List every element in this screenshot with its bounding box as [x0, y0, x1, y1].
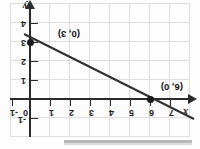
graph-figure: 7 6 5 4 3 2 1 -1 0 -1 1 2 3 4 [0, 0, 200, 143]
x-axis-tick [50, 99, 51, 106]
screenshot-canvas: 7 6 5 4 3 2 1 -1 0 -1 1 2 3 4 [0, 0, 200, 149]
y-axis-tick [31, 118, 38, 119]
x-tick-label-2: 2 [69, 108, 74, 117]
y-axis-tick [31, 61, 38, 62]
x-tick-label-1: 1 [49, 108, 54, 117]
page-edge-shadow [64, 143, 192, 145]
y-axis-tick [31, 23, 38, 24]
y-tick-label-4: 4 [21, 19, 26, 28]
point-label-0-3: (0, 3) [58, 29, 80, 40]
y-tick-label-1: 1 [21, 76, 26, 85]
coordinate-grid: 7 6 5 4 3 2 1 -1 0 -1 1 2 3 4 [10, 3, 190, 137]
y-axis-label: y [23, 1, 27, 12]
y-tick-label-neg1: -1 [18, 115, 26, 124]
gridline-horizontal [10, 136, 190, 137]
x-axis-tick [70, 99, 71, 106]
x-axis-arrow-icon [188, 94, 197, 104]
x-axis-tick [90, 99, 91, 106]
x-axis-tick [170, 99, 171, 106]
y-axis-tick [31, 80, 38, 81]
x-axis-tick [110, 99, 111, 106]
point-marker-6-0 [147, 96, 154, 103]
x-axis-tick [12, 99, 13, 106]
x-tick-label-3: 3 [89, 108, 94, 117]
x-axis-tick [130, 99, 131, 106]
x-tick-label-neg1: -1 [10, 108, 18, 117]
point-marker-0-3 [27, 39, 34, 46]
x-axis [10, 98, 190, 100]
x-tick-label-6: 6 [149, 108, 154, 117]
y-tick-label-2: 2 [21, 57, 26, 66]
x-tick-label-4: 4 [109, 108, 114, 117]
y-tick-label-3: 3 [21, 38, 26, 47]
point-label-6-0: (6, 0) [161, 82, 183, 93]
x-axis-label: x [183, 107, 188, 118]
gridline-horizontal [10, 3, 190, 4]
x-tick-label-5: 5 [129, 108, 134, 117]
